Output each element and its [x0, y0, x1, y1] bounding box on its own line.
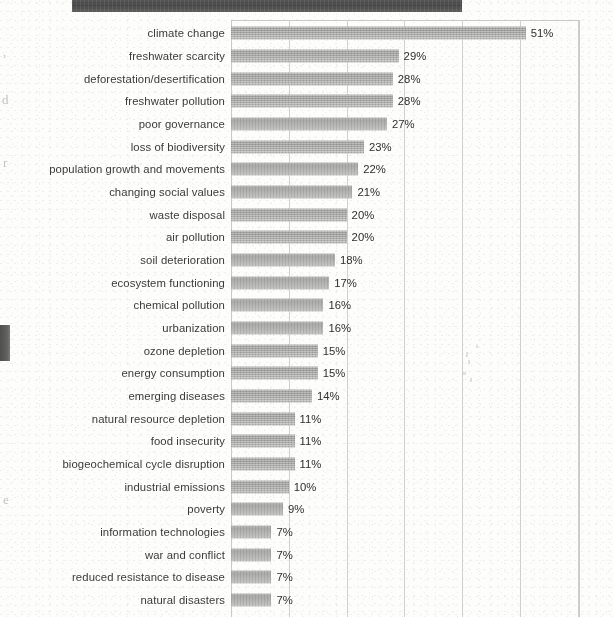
bar [231, 503, 283, 516]
bar-fill [231, 117, 387, 130]
value-label: 18% [340, 254, 363, 266]
value-label: 29% [404, 50, 427, 62]
bar-fill [231, 231, 347, 244]
value-label: 20% [352, 231, 375, 243]
value-label: 7% [276, 549, 292, 561]
category-label: poverty [0, 503, 225, 515]
category-label: natural resource depletion [0, 413, 225, 425]
category-label: freshwater pollution [0, 95, 225, 107]
category-label: poor governance [0, 118, 225, 130]
category-label: energy consumption [0, 367, 225, 379]
bar-row: air pollution20% [0, 226, 614, 249]
bar-fill [231, 571, 271, 584]
bar-row: food insecurity11% [0, 430, 614, 453]
value-label: 15% [323, 367, 346, 379]
bar-row: natural resource depletion11% [0, 407, 614, 430]
bar-fill [231, 253, 335, 266]
category-label: emerging diseases [0, 390, 225, 402]
value-label: 7% [276, 594, 292, 606]
category-label: waste disposal [0, 209, 225, 221]
value-label: 11% [300, 458, 322, 470]
bar-fill [231, 503, 283, 516]
bar-row: waste disposal20% [0, 203, 614, 226]
category-label: changing social values [0, 186, 225, 198]
category-label: natural disasters [0, 594, 225, 606]
bar [231, 185, 352, 198]
value-label: 10% [294, 481, 317, 493]
category-label: freshwater scarcity [0, 50, 225, 62]
bar [231, 480, 289, 493]
bar [231, 548, 271, 561]
bar-row: energy consumption15% [0, 362, 614, 385]
value-label: 15% [323, 345, 346, 357]
bar-row: population growth and movements22% [0, 158, 614, 181]
bar-fill [231, 367, 318, 380]
bar [231, 299, 323, 312]
bar-row: freshwater scarcity29% [0, 45, 614, 68]
bar-row: ecosystem functioning17% [0, 271, 614, 294]
bar-row: changing social values21% [0, 181, 614, 204]
bar [231, 457, 295, 470]
horizontal-bar-chart: climate change51%freshwater scarcity29%d… [0, 0, 614, 617]
bar [231, 571, 271, 584]
bar [231, 95, 393, 108]
bar [231, 50, 399, 63]
value-label: 11% [300, 435, 322, 447]
value-label: 14% [317, 390, 340, 402]
bar [231, 231, 347, 244]
bar-fill [231, 344, 318, 357]
value-label: 11% [300, 413, 322, 425]
bar-fill [231, 50, 399, 63]
category-label: biogeochemical cycle disruption [0, 458, 225, 470]
category-label: ozone depletion [0, 345, 225, 357]
bar-row: war and conflict7% [0, 543, 614, 566]
bar-row: information technologies7% [0, 521, 614, 544]
category-label: industrial emissions [0, 481, 225, 493]
bar [231, 276, 329, 289]
bar [231, 321, 323, 334]
bar-fill [231, 208, 347, 221]
bar [231, 117, 387, 130]
bar-fill [231, 299, 323, 312]
bar-fill [231, 163, 358, 176]
value-label: 17% [334, 277, 357, 289]
bar-row: emerging diseases14% [0, 385, 614, 408]
bar-row: freshwater pollution28% [0, 90, 614, 113]
bar-fill [231, 185, 352, 198]
value-label: 51% [531, 27, 554, 39]
category-label: population growth and movements [0, 163, 225, 175]
bar [231, 525, 271, 538]
bar-row: natural disasters7% [0, 589, 614, 612]
bar-row: reduced resistance to disease7% [0, 566, 614, 589]
value-label: 20% [352, 209, 375, 221]
bar-fill [231, 321, 323, 334]
bar-fill [231, 457, 295, 470]
value-label: 21% [357, 186, 380, 198]
bar [231, 367, 318, 380]
category-label: food insecurity [0, 435, 225, 447]
value-label: 9% [288, 503, 304, 515]
bar-fill [231, 593, 271, 606]
value-label: 23% [369, 141, 392, 153]
value-label: 7% [276, 571, 292, 583]
bar [231, 435, 295, 448]
bar-row: chemical pollution16% [0, 294, 614, 317]
category-label: climate change [0, 27, 225, 39]
bar-row: soil deterioration18% [0, 249, 614, 272]
bar [231, 163, 358, 176]
value-label: 27% [392, 118, 415, 130]
category-label: information technologies [0, 526, 225, 538]
value-label: 16% [328, 299, 351, 311]
bar-fill [231, 27, 526, 40]
scan-speckle [468, 360, 470, 364]
bar-fill [231, 276, 329, 289]
bar-row: deforestation/desertification28% [0, 67, 614, 90]
bar-row: poverty9% [0, 498, 614, 521]
scan-speckle [466, 352, 468, 357]
bar-fill [231, 412, 295, 425]
bar-fill [231, 435, 295, 448]
scan-speckle [476, 345, 478, 348]
category-label: soil deterioration [0, 254, 225, 266]
bar-row: urbanization16% [0, 317, 614, 340]
bar-fill [231, 72, 393, 85]
